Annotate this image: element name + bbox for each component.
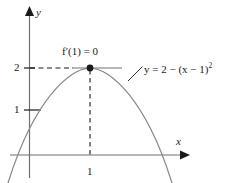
y-axis-arrowhead bbox=[25, 6, 34, 16]
x-axis-label: x bbox=[176, 136, 181, 147]
parabola-critical-point-figure: y x 2 1 1 f′(1) = 0 y = 2 − (x − 1)2 bbox=[0, 0, 231, 183]
x-tick-label-1: 1 bbox=[87, 166, 93, 177]
curve-equation-label: y = 2 − (x − 1)2 bbox=[144, 62, 212, 75]
y-axis bbox=[25, 6, 34, 178]
critical-point-annotation: f′(1) = 0 bbox=[62, 46, 98, 57]
curve-equation-exponent: 2 bbox=[208, 61, 212, 70]
y-tick-label-2: 2 bbox=[14, 62, 20, 73]
y-tick-label-1: 1 bbox=[14, 104, 20, 115]
x-axis-arrowhead bbox=[180, 151, 190, 160]
plot-canvas bbox=[0, 0, 231, 183]
curve-equation-base: y = 2 − (x − 1) bbox=[144, 63, 208, 75]
y-axis-label: y bbox=[36, 7, 41, 18]
vertex-point-marker bbox=[87, 65, 94, 72]
equation-leader-line bbox=[128, 67, 143, 82]
